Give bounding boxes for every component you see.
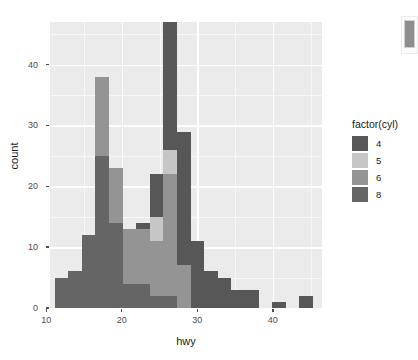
y-tick-mark xyxy=(46,186,49,187)
y-tick-mark xyxy=(46,246,49,247)
histogram-plot: 010203040 10203040 hwy count factor(cyl)… xyxy=(0,0,418,360)
legend-item-label: 4 xyxy=(376,138,381,149)
histogram-bar-segment xyxy=(95,77,109,156)
legend-key-swatch xyxy=(352,153,368,168)
histogram-bar-segment xyxy=(163,296,177,308)
histogram-bar-segment xyxy=(150,296,164,308)
y-tick-mark xyxy=(46,125,49,126)
histogram-bar-segment xyxy=(163,174,177,296)
histogram-bar-segment xyxy=(123,284,137,308)
x-tick-label: 30 xyxy=(182,315,212,325)
histogram-bar-segment xyxy=(163,150,177,174)
x-axis-title: hwy xyxy=(50,335,322,347)
legend-item[interactable]: 5 xyxy=(352,152,412,168)
histogram-bar-segment xyxy=(245,290,259,308)
y-tick-label: 10 xyxy=(8,242,38,252)
histogram-bar-segment xyxy=(150,217,164,241)
histogram-bar-segment xyxy=(95,156,109,308)
histogram-bar-segment xyxy=(177,265,191,308)
histogram-bar-segment xyxy=(150,241,164,296)
histogram-bar-segment xyxy=(177,132,191,266)
y-tick-label: 40 xyxy=(8,60,38,70)
histogram-bar-segment xyxy=(191,241,205,308)
plot-panel xyxy=(50,22,322,308)
histogram-bar-segment xyxy=(299,296,313,308)
histogram-bar-segment xyxy=(109,223,123,308)
histogram-bar-segment xyxy=(231,290,245,308)
legend-item-label: 5 xyxy=(376,155,381,166)
histogram-bar-segment xyxy=(163,22,177,150)
x-tick-mark xyxy=(121,309,122,312)
x-tick-mark xyxy=(46,309,47,312)
x-tick-label: 40 xyxy=(258,315,288,325)
legend-item-label: 6 xyxy=(376,172,381,183)
histogram-bar-segment xyxy=(204,271,218,308)
histogram-bar-segment xyxy=(55,278,69,308)
histogram-bar-segment xyxy=(136,223,150,229)
y-axis-title: count xyxy=(8,126,20,186)
histogram-bar-segment xyxy=(68,271,82,308)
histogram-bar-segment xyxy=(136,229,150,284)
legend-title: factor(cyl) xyxy=(352,118,412,130)
x-tick-mark xyxy=(197,309,198,312)
histogram-bar-segment xyxy=(136,284,150,308)
legend-item[interactable]: 6 xyxy=(352,169,412,185)
histogram-bar-segment xyxy=(272,302,286,308)
legend: factor(cyl) 4568 xyxy=(352,118,412,203)
legend-item[interactable]: 4 xyxy=(352,135,412,151)
histogram-bar-segment xyxy=(109,168,123,223)
legend-key-swatch xyxy=(352,170,368,185)
legend-item[interactable]: 8 xyxy=(352,186,412,202)
x-tick-mark xyxy=(272,309,273,312)
histogram-bar-segment xyxy=(218,278,232,308)
bar-series-group xyxy=(50,22,322,308)
legend-items: 4568 xyxy=(352,135,412,202)
y-tick-mark xyxy=(46,64,49,65)
histogram-bar-segment xyxy=(123,229,137,284)
histogram-bar-segment xyxy=(82,235,96,308)
y-tick-label: 0 xyxy=(8,303,38,313)
x-tick-label: 20 xyxy=(107,315,137,325)
histogram-bar-segment xyxy=(150,174,164,217)
legend-item-label: 8 xyxy=(376,189,381,200)
legend-key-swatch xyxy=(352,187,368,202)
legend-key-swatch xyxy=(352,136,368,151)
chart-root: 010203040 10203040 hwy count factor(cyl)… xyxy=(0,0,418,360)
x-tick-label: 10 xyxy=(31,315,61,325)
